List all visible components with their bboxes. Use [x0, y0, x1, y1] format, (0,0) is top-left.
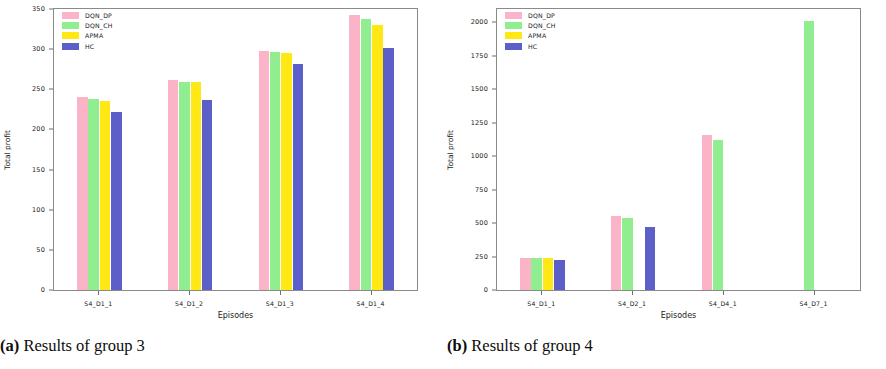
caption-b: (b) Results of group 4 — [443, 336, 886, 356]
bars-container-a — [54, 9, 417, 290]
bar-dqn_ch-s4_d1_1 — [531, 258, 542, 290]
x-tick-mark-b — [541, 291, 542, 295]
y-tick-label-a: 150 — [32, 166, 45, 174]
figure-two-panel-bar-charts: 050100150200250300350 Total profit S4_D1… — [0, 0, 886, 369]
y-tick-label-b: 1500 — [471, 85, 488, 93]
legend-item-apma: APMA — [62, 32, 113, 39]
legend-item-dqn_dp: DQN_DP — [505, 12, 556, 19]
bar-apma-s4_d1_4 — [372, 25, 383, 290]
y-tick-mark-b — [492, 156, 496, 157]
y-tick-mark-b — [492, 256, 496, 257]
legend-item-hc: HC — [505, 43, 556, 50]
bar-dqn_ch-s4_d4_1 — [713, 140, 724, 290]
legend-label-dqn_ch: DQN_CH — [85, 22, 113, 29]
legend-label-dqn_dp: DQN_DP — [528, 12, 555, 19]
legend-item-dqn_dp: DQN_DP — [62, 12, 113, 19]
legend-swatch-hc — [62, 43, 79, 50]
y-tick-label-b: 500 — [475, 219, 488, 227]
legend-item-dqn_ch: DQN_CH — [505, 22, 556, 29]
x-tick-mark-a — [189, 291, 190, 295]
x-tick-label-a: S4_D1_4 — [357, 300, 385, 307]
x-tick-mark-b — [723, 291, 724, 295]
caption-b-text: Results of group 4 — [471, 336, 592, 355]
bar-dqn_ch-s4_d2_1 — [622, 218, 633, 290]
bar-dqn_dp-s4_d4_1 — [702, 135, 713, 290]
x-tick-label-b: S4_D7_1 — [800, 300, 828, 307]
x-axis-a: S4_D1_1S4_D1_2S4_D1_3S4_D1_4 — [53, 291, 418, 313]
x-tick-label-a: S4_D1_3 — [266, 300, 294, 307]
y-tick-label-b: 1750 — [471, 52, 488, 60]
y-tick-mark-b — [492, 22, 496, 23]
y-tick-mark-a — [49, 169, 53, 170]
bar-dqn_dp-s4_d2_1 — [611, 216, 622, 290]
legend-b: DQN_DPDQN_CHAPMAHC — [505, 12, 556, 50]
bar-hc-s4_d2_1 — [645, 227, 656, 290]
y-tick-mark-a — [49, 49, 53, 50]
y-tick-label-b: 750 — [475, 186, 488, 194]
y-tick-mark-b — [492, 55, 496, 56]
bar-hc-s4_d1_1 — [111, 112, 122, 290]
x-tick-mark-b — [814, 291, 815, 295]
bar-apma-s4_d1_1 — [100, 101, 111, 290]
bar-hc-s4_d1_4 — [383, 48, 394, 290]
bar-hc-s4_d1_2 — [202, 100, 213, 290]
x-tick-label-a: S4_D1_1 — [84, 300, 112, 307]
legend-swatch-hc — [505, 43, 522, 50]
legend-item-hc: HC — [62, 43, 113, 50]
bar-hc-s4_d1_1 — [554, 260, 565, 290]
y-tick-label-b: 1250 — [471, 119, 488, 127]
y-tick-mark-a — [49, 9, 53, 10]
legend-a: DQN_DPDQN_CHAPMAHC — [62, 12, 113, 50]
bar-dqn_ch-s4_d7_1 — [804, 21, 815, 290]
caption-a: (a) Results of group 3 — [0, 336, 443, 356]
bar-dqn_ch-s4_d1_2 — [179, 82, 190, 290]
x-tick-label-a: S4_D1_2 — [175, 300, 203, 307]
x-tick-label-b: S4_D1_1 — [527, 300, 555, 307]
bar-dqn_ch-s4_d1_4 — [361, 19, 372, 290]
y-tick-label-b: 0 — [484, 286, 488, 294]
legend-swatch-dqn_dp — [505, 12, 522, 19]
x-tick-label-b: S4_D4_1 — [709, 300, 737, 307]
bar-apma-s4_d1_1 — [543, 258, 554, 290]
bar-dqn_dp-s4_d1_3 — [259, 51, 270, 290]
legend-item-apma: APMA — [505, 32, 556, 39]
legend-swatch-dqn_dp — [62, 12, 79, 19]
y-tick-label-b: 2000 — [471, 18, 488, 26]
x-tick-mark-a — [280, 291, 281, 295]
y-tick-mark-a — [49, 89, 53, 90]
legend-swatch-dqn_ch — [62, 22, 79, 29]
y-tick-mark-a — [49, 209, 53, 210]
x-axis-label-a: Episodes — [53, 311, 418, 320]
y-tick-label-a: 250 — [32, 85, 45, 93]
y-tick-mark-b — [492, 89, 496, 90]
y-tick-mark-b — [492, 122, 496, 123]
x-axis-label-b: Episodes — [496, 311, 861, 320]
y-axis-label-a: Total profit — [3, 130, 12, 170]
y-tick-label-a: 100 — [32, 206, 45, 214]
x-tick-mark-b — [632, 291, 633, 295]
y-tick-mark-b — [492, 189, 496, 190]
legend-swatch-apma — [505, 32, 522, 39]
y-tick-mark-a — [49, 249, 53, 250]
legend-label-dqn_dp: DQN_DP — [85, 12, 112, 19]
panel-b: 025050075010001250150017502000 Total pro… — [443, 0, 886, 369]
bar-hc-s4_d1_3 — [293, 64, 304, 290]
x-axis-b: S4_D1_1S4_D2_1S4_D4_1S4_D7_1 — [496, 291, 861, 313]
y-tick-label-a: 300 — [32, 45, 45, 53]
legend-label-hc: HC — [528, 43, 537, 50]
bar-dqn_ch-s4_d1_1 — [88, 99, 99, 290]
legend-label-apma: APMA — [85, 32, 103, 39]
legend-label-apma: APMA — [528, 32, 546, 39]
bar-dqn_dp-s4_d1_2 — [168, 80, 179, 290]
x-tick-label-b: S4_D2_1 — [618, 300, 646, 307]
caption-b-prefix: (b) — [447, 336, 467, 355]
y-tick-mark-a — [49, 129, 53, 130]
bars-container-b — [497, 9, 860, 290]
bar-dqn_dp-s4_d1_1 — [77, 97, 88, 290]
x-tick-mark-a — [98, 291, 99, 295]
legend-swatch-apma — [62, 32, 79, 39]
legend-label-hc: HC — [85, 43, 94, 50]
y-tick-label-a: 0 — [41, 286, 45, 294]
panel-a: 050100150200250300350 Total profit S4_D1… — [0, 0, 443, 369]
y-tick-label-a: 350 — [32, 5, 45, 13]
